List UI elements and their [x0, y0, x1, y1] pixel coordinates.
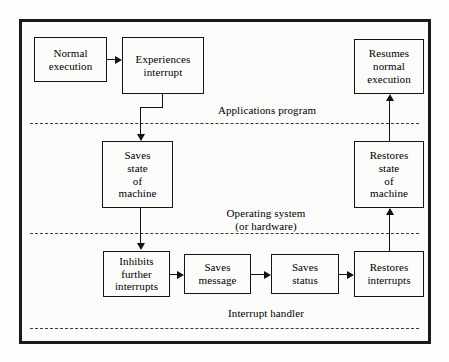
box-inhibits-further-interrupts-label: Inhibits further interrupts: [113, 255, 160, 294]
box-saves-message-label: Saves message: [197, 261, 239, 287]
arrowhead-inhibits-to-saves-message: [177, 271, 184, 279]
box-saves-status-label: Saves status: [290, 261, 320, 287]
connector-saves-message-to-saves-status: [251, 274, 264, 275]
box-saves-status[interactable]: Saves status: [271, 254, 339, 294]
connector-inhibits-to-saves-message: [170, 274, 177, 275]
connector-experiences-jog: [140, 107, 163, 108]
divider-applications-operating: [30, 123, 419, 124]
connector-restores-interrupts-to-state: [389, 209, 390, 251]
box-normal-execution[interactable]: Normal execution: [34, 37, 107, 82]
zone-label-applications-program: Applications program: [172, 104, 362, 117]
arrowhead-to-resumes-normal: [386, 94, 394, 101]
divider-handler-bottom: [30, 328, 419, 329]
connector-experiences-drop: [162, 94, 163, 108]
box-saves-state-of-machine[interactable]: Saves state of machine: [102, 141, 173, 208]
connector-saves-status-to-restores-interrupts: [339, 274, 347, 275]
zone-label-operating-system: Operating system (or hardware): [186, 207, 346, 233]
diagram-canvas: Normal execution Experiences interrupt R…: [0, 0, 449, 362]
box-experiences-interrupt-label: Experiences interrupt: [134, 53, 193, 79]
box-restores-interrupts-label: Restores interrupts: [365, 261, 412, 287]
connector-normal-to-experiences: [107, 59, 115, 60]
box-normal-execution-label: Normal execution: [47, 47, 95, 73]
connector-restores-state-to-resumes: [389, 100, 390, 141]
box-restores-state-of-machine[interactable]: Restores state of machine: [354, 141, 424, 208]
arrowhead-normal-to-experiences: [115, 56, 122, 64]
box-resumes-normal-execution-label: Resumes normal execution: [365, 47, 413, 86]
box-saves-state-of-machine-label: Saves state of machine: [117, 149, 159, 201]
box-saves-message[interactable]: Saves message: [184, 254, 251, 294]
arrowhead-to-inhibits: [137, 243, 145, 250]
box-inhibits-further-interrupts[interactable]: Inhibits further interrupts: [103, 251, 170, 297]
arrowhead-to-saves-state: [137, 134, 145, 141]
box-resumes-normal-execution[interactable]: Resumes normal execution: [354, 39, 424, 94]
box-restores-interrupts[interactable]: Restores interrupts: [354, 251, 424, 297]
diagram-frame: Normal execution Experiences interrupt R…: [19, 19, 431, 344]
arrowhead-to-restores-state: [386, 208, 394, 215]
zone-label-interrupt-handler: Interrupt handler: [176, 307, 356, 320]
arrowhead-saves-status-to-restores-interrupts: [347, 271, 354, 279]
connector-saves-state-to-inhibits: [140, 208, 141, 245]
arrowhead-saves-message-to-saves-status: [264, 271, 271, 279]
box-restores-state-of-machine-label: Restores state of machine: [368, 149, 411, 201]
box-experiences-interrupt[interactable]: Experiences interrupt: [122, 37, 204, 94]
